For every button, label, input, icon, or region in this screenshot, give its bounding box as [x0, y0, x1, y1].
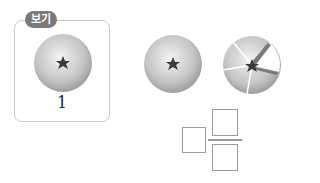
whole-fruit-icon	[143, 34, 203, 94]
numerator-blank[interactable]	[212, 109, 238, 136]
denominator-blank[interactable]	[212, 144, 238, 171]
sliced-fruit-icon	[221, 34, 283, 96]
whole-number-blank[interactable]	[182, 127, 206, 153]
example-tag: 보기	[25, 11, 57, 28]
example-value: 1	[47, 93, 77, 112]
example-fruit-icon	[33, 33, 93, 93]
fraction-bar	[208, 139, 242, 141]
